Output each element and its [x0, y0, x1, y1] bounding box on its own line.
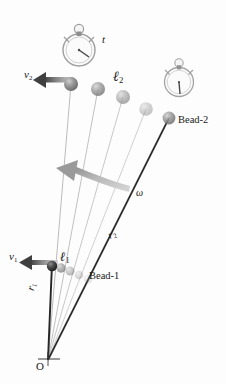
label-omega: ω [136, 188, 143, 198]
stopwatch-hand-late [179, 82, 180, 94]
label-bead-1: Bead-1 [89, 271, 119, 282]
label-origin: O [36, 361, 44, 372]
ray-group-bold [48, 118, 169, 360]
ray-3 [48, 89, 98, 360]
label-v2-sub: 2 [29, 74, 32, 81]
bead-inner-3 [66, 267, 75, 276]
label-l1: ℓ1 [60, 250, 70, 265]
bead-inner-4 [75, 271, 84, 280]
label-v1-sub: 1 [14, 256, 17, 263]
ray-group-thin [48, 84, 146, 360]
label-v1: v1 [9, 251, 17, 263]
bead-inner-1-bead1 [47, 261, 57, 271]
label-time-t: t [102, 34, 105, 45]
figure-canvas: v2 t ℓ2 Bead-2 ω r2 v1 ℓ1 Bead-1 r1 O [0, 0, 226, 384]
bead-outer-5-bead2 [163, 112, 176, 125]
ray-5 [48, 109, 146, 360]
label-v2: v2 [24, 69, 32, 81]
ray-r1-line [48, 264, 52, 360]
label-bead-2: Bead-2 [178, 115, 208, 126]
label-l1-sub: 1 [66, 256, 70, 265]
label-l2: ℓ2 [113, 69, 123, 85]
bead-outer-1 [64, 77, 78, 91]
label-l2-sub: 2 [119, 75, 123, 85]
omega-arrow [56, 160, 130, 192]
ray-r2-line [48, 118, 169, 360]
bead-outer-3 [116, 90, 130, 104]
diagram-svg [0, 0, 226, 384]
stopwatch-early [63, 24, 95, 66]
stopwatch-late [165, 59, 194, 97]
bead-outer-2 [91, 82, 105, 96]
bead-outer-4 [139, 102, 153, 116]
